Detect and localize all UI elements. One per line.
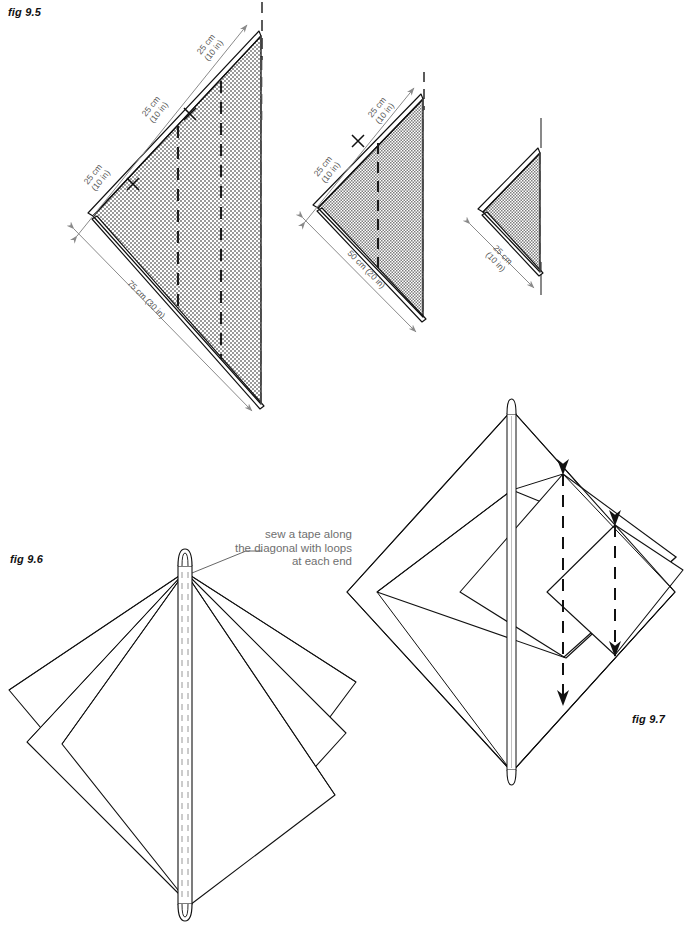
fig-9-5-group [74, 2, 543, 411]
fig95-medium-triangle [303, 72, 426, 332]
fig97-loop-top [507, 399, 516, 414]
fig-9-6-label: fig 9.6 [10, 553, 43, 565]
fig-9-6-group [9, 549, 356, 921]
loop-top [178, 549, 192, 566]
diagram-page: fig 9.5 fig 9.6 fig 9.7 sew a tape along… [0, 0, 685, 934]
sew-tape-annotation: sew a tape along the diagonal with loops… [222, 528, 352, 569]
technical-drawing-canvas [0, 0, 685, 934]
fig97-loop-bottom [507, 770, 516, 785]
fig95-large-triangle [74, 2, 264, 411]
fig-9-5-label: fig 9.5 [8, 6, 41, 18]
kite-layer-front [62, 572, 335, 905]
fig-9-7-group [347, 399, 683, 785]
fig-9-7-label: fig 9.7 [632, 713, 665, 725]
tick-marks-medium [352, 135, 364, 147]
tape-body [178, 566, 192, 904]
diagonal-tape [178, 549, 192, 921]
loop-bottom [178, 904, 192, 921]
fig97-diagonal-tape [507, 399, 516, 785]
